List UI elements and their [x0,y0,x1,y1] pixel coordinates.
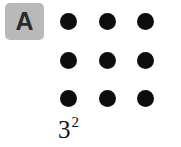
dot-r1c1 [60,13,77,30]
dot-r2c1 [60,52,77,69]
figure-panel-a: A 32 [0,0,181,147]
dot-r3c1 [60,90,77,107]
dot-r1c3 [137,13,154,30]
dot-r3c2 [99,90,116,107]
dot-r3c3 [137,90,154,107]
dot-array-3x3 [0,0,181,120]
caption-three-squared: 32 [58,116,118,147]
caption-base-number: 3 [58,116,71,143]
dot-r2c2 [99,52,116,69]
dot-r2c3 [137,52,154,69]
dot-r1c2 [99,13,116,30]
caption-exponent-number: 2 [72,114,80,130]
